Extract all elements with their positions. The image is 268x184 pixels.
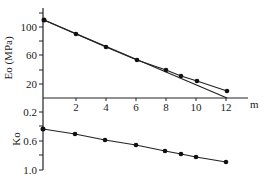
x-tick-4: 4 — [103, 101, 109, 113]
x-tick-10: 10 — [191, 101, 203, 113]
ko-tick-0.2: 0.2 — [23, 106, 37, 118]
eo-data-line — [44, 20, 227, 91]
x-tick-12: 12 — [221, 101, 232, 113]
ko-tick-0.6: 0.6 — [23, 135, 37, 147]
ko-axis-label: Ko — [10, 132, 22, 146]
eo-tick-20: 20 — [26, 78, 38, 90]
x-tick-2: 2 — [73, 101, 79, 113]
eo-axis-label: Eo (MPa) — [2, 36, 15, 79]
x-unit-label: m — [250, 98, 259, 110]
ko-tick-1.0: 1.0 — [23, 164, 37, 176]
x-tick-8: 8 — [163, 101, 169, 113]
ko-markers — [41, 127, 229, 165]
eo-tick-60: 60 — [26, 49, 38, 61]
chart: 100 60 20 Eo (MPa) 2 4 6 8 10 12 m 0.2 — [0, 0, 268, 184]
eo-tick-100: 100 — [21, 21, 38, 33]
x-tick-6: 6 — [133, 101, 139, 113]
